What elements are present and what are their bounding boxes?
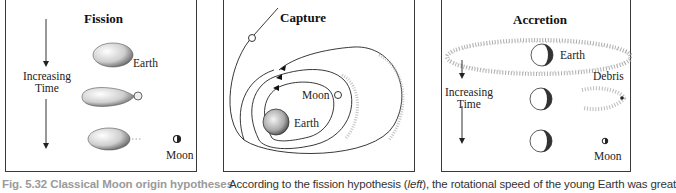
moon-icon xyxy=(602,138,608,144)
fission-moon-label: Moon xyxy=(166,149,193,161)
accretion-time-label: Increasing Time xyxy=(445,86,493,110)
accretion-title: Accretion xyxy=(513,12,567,28)
fission-earth-label: Earth xyxy=(133,57,158,69)
earth-pear-icon xyxy=(82,88,142,107)
capture-panel: Capture Moon Earth xyxy=(223,0,415,172)
earth-icon xyxy=(531,44,553,66)
accretion-earth-label: Earth xyxy=(560,49,585,61)
moon-icon xyxy=(174,136,181,143)
earth-icon xyxy=(530,130,552,152)
figure-caption-label: Fig. 5.32 Classical Moon origin hypothes… xyxy=(2,178,233,190)
capture-earth-label: Earth xyxy=(294,117,319,129)
capture-moon-label: Moon xyxy=(302,89,329,101)
earth-icon xyxy=(263,109,289,135)
earth-oblate-icon xyxy=(93,43,133,67)
debris-clump-icon xyxy=(582,88,624,109)
accretion-moon-label: Moon xyxy=(594,150,621,162)
figure-caption-body: According to the fission hypothesis (lef… xyxy=(229,178,676,190)
fission-time-label: Increasing Time xyxy=(23,70,71,94)
capture-title: Capture xyxy=(280,10,326,26)
earth-separated-icon xyxy=(88,128,130,150)
accretion-panel: Accretion Earth Debris Increasing Time M… xyxy=(441,0,631,172)
fission-panel: Fission Earth Increasing Time Moon xyxy=(5,0,197,172)
moon-icon xyxy=(335,92,342,99)
earth-icon xyxy=(530,88,552,110)
fission-title: Fission xyxy=(84,11,123,27)
accretion-debris-label: Debris xyxy=(593,70,624,82)
incoming-moon-icon xyxy=(249,35,256,42)
